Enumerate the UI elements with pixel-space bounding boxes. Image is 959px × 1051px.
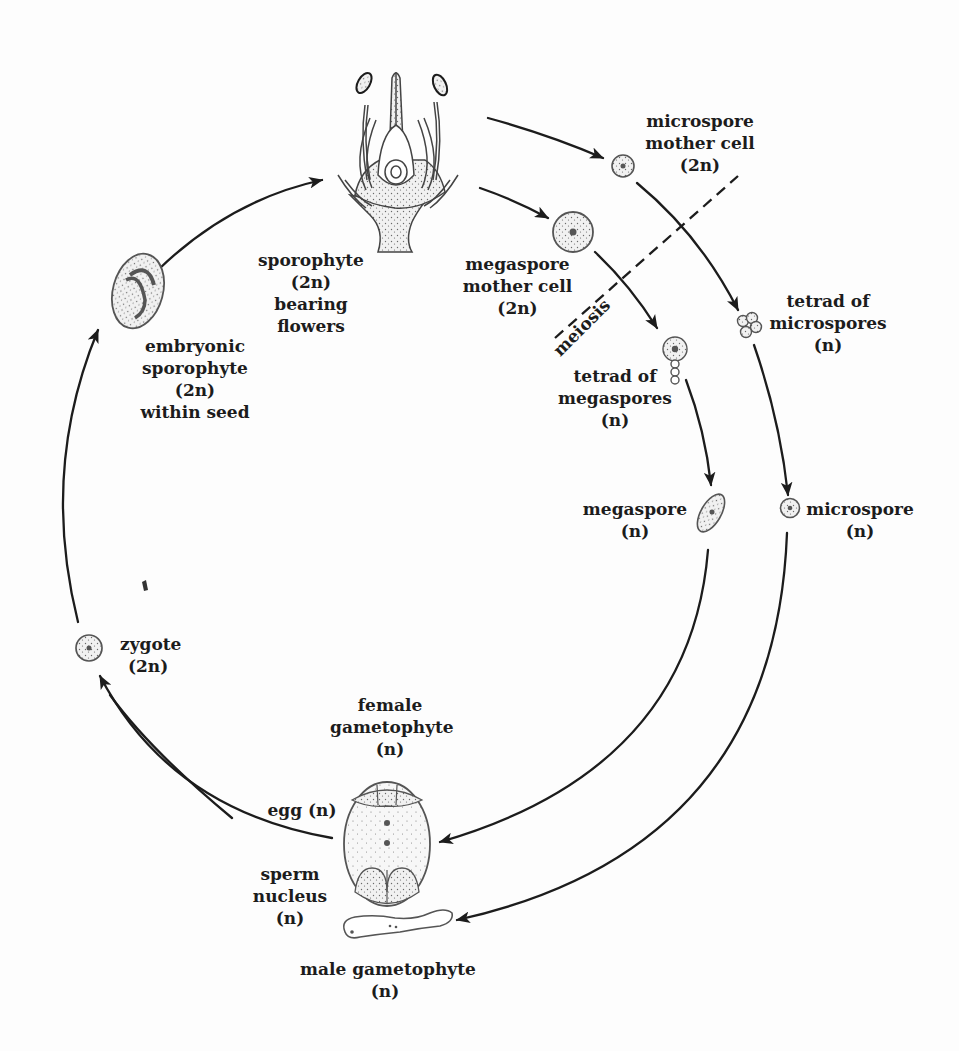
label-tetrad-of-megaspores: tetrad of megaspores (n) xyxy=(555,365,675,431)
arrow-to-megaspore xyxy=(686,380,711,485)
arrow-microspore-to-male-gametophyte xyxy=(457,533,787,920)
megaspore-mother-cell-icon xyxy=(553,212,593,252)
label-line: sporophyte xyxy=(130,357,260,379)
label-line: (n) xyxy=(250,907,330,929)
label-line: within seed xyxy=(130,401,260,423)
arrow-sporophyte-to-microspore-mother xyxy=(488,118,603,158)
label-line: (n) xyxy=(763,334,893,356)
label-line: (n) xyxy=(300,980,470,1002)
label-line: (2n) xyxy=(640,154,760,176)
arrow-to-microspore xyxy=(754,345,788,495)
label-embryonic-sporophyte: embryonic sporophyte (2n) within seed xyxy=(130,335,260,423)
label-line: bearing xyxy=(256,293,366,315)
label-sperm-nucleus: sperm nucleus (n) xyxy=(250,863,330,929)
label-microspore: microspore (n) xyxy=(805,498,915,542)
flower-icon xyxy=(338,70,458,252)
label-tetrad-of-microspores: tetrad of microspores (n) xyxy=(763,290,893,356)
zygote-icon xyxy=(76,635,102,661)
microspore-mother-cell-icon xyxy=(612,155,634,177)
label-line: megaspores xyxy=(555,387,675,409)
arrow-to-tetrad-microspores xyxy=(637,183,738,310)
arrow-sperm-to-zygote xyxy=(110,695,232,818)
label-line: flowers xyxy=(256,315,366,337)
label-line: (n) xyxy=(580,520,690,542)
arrow-megaspore-to-female-gametophyte xyxy=(440,550,708,842)
label-line: (2n) xyxy=(256,271,366,293)
label-line: egg (n) xyxy=(262,799,342,821)
label-female-gametophyte: female gametophyte (n) xyxy=(330,694,450,760)
label-line: zygote xyxy=(120,633,200,655)
label-line: microspores xyxy=(763,312,893,334)
label-zygote: zygote (2n) xyxy=(120,633,200,677)
label-megaspore-mother-cell: megaspore mother cell (2n) xyxy=(455,253,580,319)
label-line: sporophyte xyxy=(256,249,366,271)
label-microspore-mother-cell: microspore mother cell (2n) xyxy=(640,110,760,176)
label-line: tetrad of xyxy=(555,365,675,387)
label-line: (2n) xyxy=(130,379,260,401)
male-gametophyte-icon xyxy=(344,910,453,938)
label-male-gametophyte: male gametophyte (n) xyxy=(300,958,470,1002)
seed-icon xyxy=(104,248,172,334)
label-line: male gametophyte xyxy=(300,958,470,980)
label-line: female xyxy=(330,694,450,716)
label-line: embryonic xyxy=(130,335,260,357)
label-line: mother cell xyxy=(455,275,580,297)
arrow-zygote-to-seed xyxy=(63,330,98,622)
label-sporophyte: sporophyte (2n) bearing flowers xyxy=(256,249,366,337)
label-line: (n) xyxy=(330,738,450,760)
label-line: microspore xyxy=(805,498,915,520)
label-line: (n) xyxy=(555,409,675,431)
life-cycle-diagram: sporophyte (2n) bearing flowers microspo… xyxy=(0,0,959,1051)
label-line: (n) xyxy=(805,520,915,542)
megaspore-icon xyxy=(692,490,730,536)
label-line: sperm xyxy=(250,863,330,885)
female-gametophyte-icon xyxy=(344,782,430,906)
microspore-icon xyxy=(781,499,800,518)
label-line: megaspore xyxy=(580,498,690,520)
tetrad-of-microspores-icon xyxy=(738,313,762,338)
label-line: microspore xyxy=(640,110,760,132)
label-megaspore: megaspore (n) xyxy=(580,498,690,542)
label-line: gametophyte xyxy=(330,716,450,738)
label-line: (2n) xyxy=(120,655,200,677)
label-line: megaspore xyxy=(455,253,580,275)
label-line: nucleus xyxy=(250,885,330,907)
label-line: tetrad of xyxy=(763,290,893,312)
label-egg: egg (n) xyxy=(262,799,342,821)
label-line: (2n) xyxy=(455,297,580,319)
arrow-sporophyte-to-megaspore-mother xyxy=(480,188,548,218)
label-line: mother cell xyxy=(640,132,760,154)
ink-speck xyxy=(142,580,148,591)
